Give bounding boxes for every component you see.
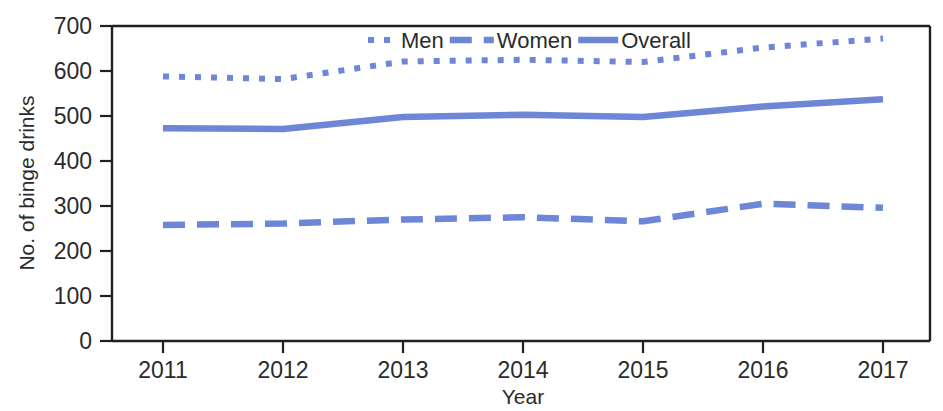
y-tick-label-0: 0 [79,328,92,354]
y-tick-label-100: 100 [54,283,92,309]
series-line-women [163,204,883,225]
x-axis-ticks [163,341,883,353]
y-tick-label-700: 700 [54,13,92,39]
y-axis-ticks [100,26,112,341]
y-tick-label-400: 400 [54,148,92,174]
x-tick-label-2017: 2017 [857,357,908,383]
y-axis-title: No. of binge drinks [15,95,38,270]
y-tick-label-200: 200 [54,238,92,264]
legend-label-overall: Overall [621,28,691,53]
y-tick-label-300: 300 [54,193,92,219]
x-tick-label-2015: 2015 [617,357,668,383]
chart-figure: 0 100 200 300 400 500 600 700 2011 2012 … [0,0,943,411]
x-axis-tick-labels: 2011 2012 2013 2014 2015 2016 2017 [138,357,908,383]
legend-label-men: Men [401,28,444,53]
legend-label-women: Women [497,28,572,53]
series-line-overall [163,99,883,129]
x-tick-label-2011: 2011 [138,357,187,383]
chart-legend: MenWomenOverall [368,28,691,53]
x-tick-label-2012: 2012 [257,357,308,383]
y-axis-tick-labels: 0 100 200 300 400 500 600 700 [54,13,92,354]
data-series-layer [163,39,883,225]
x-tick-label-2013: 2013 [377,357,428,383]
plot-frame [112,26,930,341]
y-tick-label-500: 500 [54,103,92,129]
line-chart: 0 100 200 300 400 500 600 700 2011 2012 … [0,0,943,411]
x-tick-label-2014: 2014 [497,357,548,383]
y-tick-label-600: 600 [54,58,92,84]
x-tick-label-2016: 2016 [737,357,788,383]
x-axis-title: Year [502,385,544,408]
